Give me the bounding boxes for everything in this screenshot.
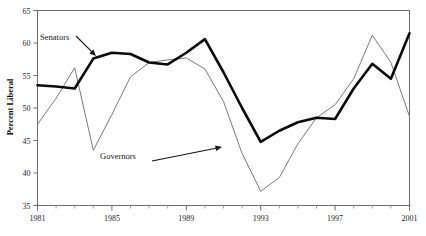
y-tick-label-45: 45 <box>23 137 31 146</box>
x-tick-label-1993: 1993 <box>253 214 269 223</box>
chart-figure: 35404550556065 198119851989199319972001 … <box>0 0 426 236</box>
annotation-label-governors: Governors <box>100 151 136 161</box>
x-tick-label-1985: 1985 <box>104 214 120 223</box>
y-tick-label-50: 50 <box>23 104 31 113</box>
x-tick-label-1997: 1997 <box>327 214 343 223</box>
y-tick-label-35: 35 <box>23 202 31 211</box>
x-tick-label-1989: 1989 <box>178 214 194 223</box>
chart-canvas: 35404550556065 198119851989199319972001 … <box>0 0 426 236</box>
x-tick-label-1981: 1981 <box>30 214 46 223</box>
y-tick-label-65: 65 <box>23 7 31 16</box>
annotation-label-senators: Senators <box>40 32 69 42</box>
y-tick-label-55: 55 <box>23 72 31 81</box>
y-tick-label-60: 60 <box>23 39 31 48</box>
x-tick-label-2001: 2001 <box>402 214 418 223</box>
y-axis-title: Percent Liberal <box>5 78 15 135</box>
y-tick-label-40: 40 <box>23 169 31 178</box>
